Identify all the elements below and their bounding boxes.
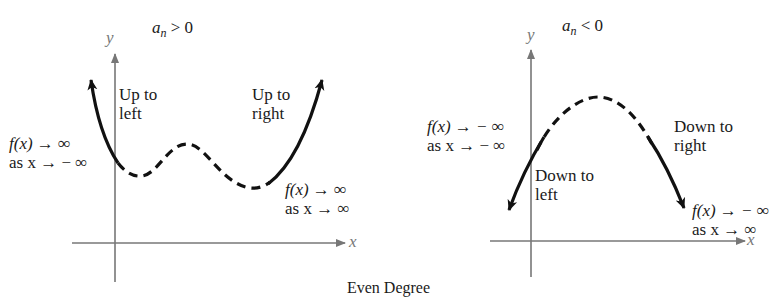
right-limit-neg-inf-left: f(x) → − ∞as x → − ∞ [427, 117, 505, 155]
end-behavior-diagram [0, 0, 777, 300]
figure-caption: Even Degree [0, 279, 777, 297]
left-up-to-left-label: Up toleft [119, 85, 157, 123]
right-limit-neg-inf-right: f(x) → − ∞as x → ∞ [692, 201, 769, 239]
left-y-axis-label: y [106, 28, 114, 48]
right-condition: an < 0 [562, 16, 603, 39]
right-down-to-left-label: Down toleft [535, 166, 594, 204]
right-graph [490, 50, 745, 277]
right-y-axis-label: y [527, 25, 535, 45]
left-up-to-right-label: Up toright [252, 85, 290, 123]
right-down-to-right-label: Down toright [674, 117, 733, 155]
left-curve-left-arm [91, 80, 118, 163]
left-condition: an > 0 [152, 18, 193, 41]
left-curve-middle-dashed [118, 144, 270, 188]
left-limit-neg-inf: f(x) → ∞as x → − ∞ [9, 134, 87, 172]
left-graph [72, 54, 345, 282]
left-x-axis-label: x [349, 232, 357, 252]
left-limit-pos-inf: f(x) → ∞as x → ∞ [285, 180, 350, 218]
right-curve-middle-dashed [537, 97, 654, 150]
